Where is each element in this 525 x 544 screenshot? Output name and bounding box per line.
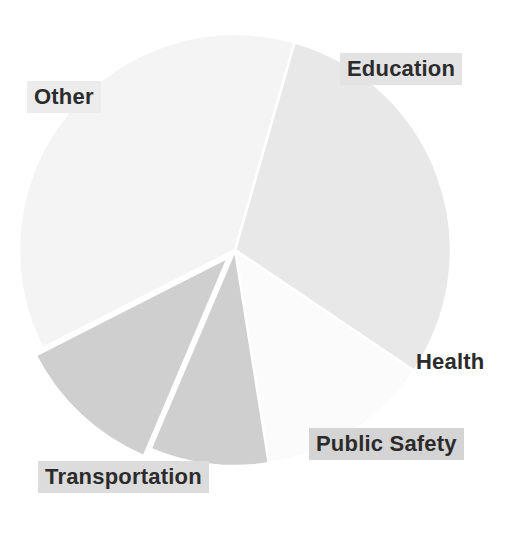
pie-label-health: Health bbox=[409, 346, 491, 378]
pie-chart: Education Other Health Public Safety Tra… bbox=[0, 0, 525, 544]
pie-label-transportation: Transportation bbox=[38, 461, 209, 493]
pie-label-public-safety: Public Safety bbox=[309, 428, 464, 460]
pie-label-other: Other bbox=[27, 81, 101, 113]
pie-label-education: Education bbox=[340, 53, 462, 85]
